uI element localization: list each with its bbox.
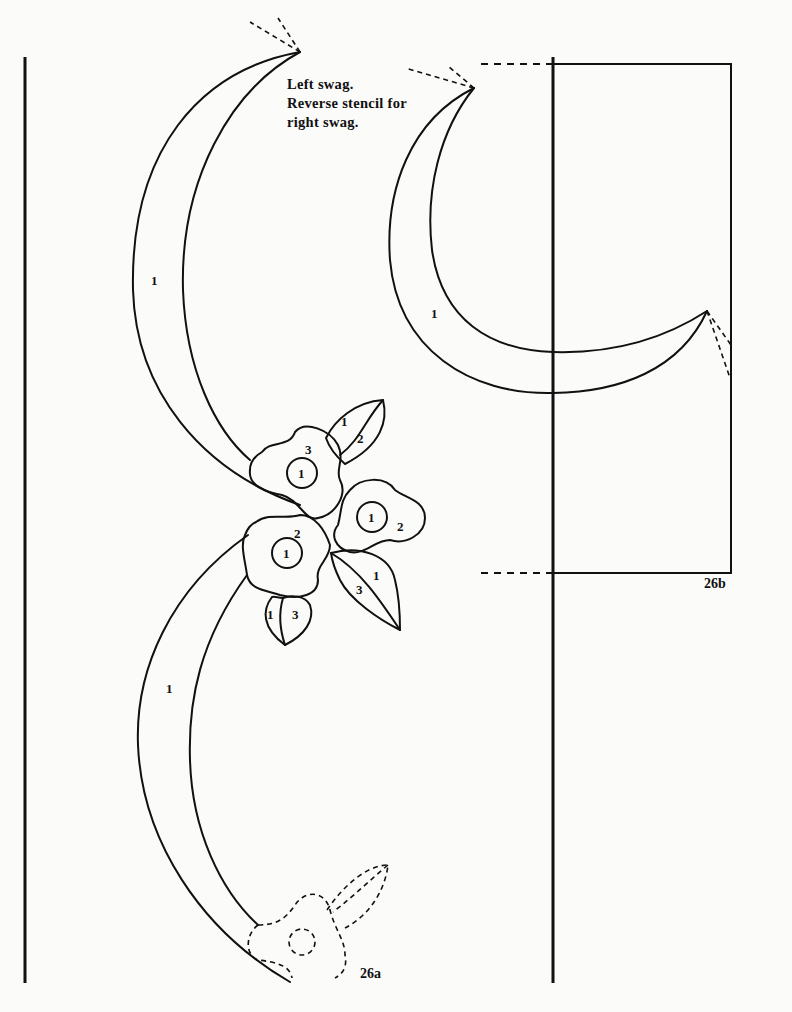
left-swag-lower [138,535,290,982]
figure-label-26b: 26b [704,576,726,592]
num-flower-right-petal: 2 [397,519,404,534]
flower-right [334,480,425,553]
num-flower-right-center: 1 [368,510,375,525]
leaf-right [331,550,400,630]
stencil-instructions: Left swag. Reverse stencil for right swa… [287,75,407,132]
flower-top [250,427,343,519]
right-swag [389,66,731,393]
leaf-top [326,400,385,464]
figure-label-26a: 26a [360,966,381,982]
instruction-line-1: Left swag. [287,75,407,94]
num-leaf-top-b: 2 [357,431,364,446]
num-swag-right: 1 [431,306,438,321]
num-flower-lower-center: 1 [283,546,290,561]
num-leaf-right-a: 1 [373,568,380,583]
num-leaf-right-b: 3 [356,582,363,597]
instruction-line-3: right swag. [287,113,407,132]
num-flower-top-center: 1 [298,466,305,481]
num-flower-top-petal: 3 [305,442,312,457]
num-flower-lower-petal: 2 [294,526,301,541]
num-swag-upper: 1 [151,273,158,288]
left-swag-upper [133,18,300,505]
instruction-line-2: Reverse stencil for [287,94,407,113]
num-leaf-top-a: 1 [341,414,348,429]
stencil-pattern-sheet: 1 1 1 1 3 1 2 1 2 1 2 1 3 1 3 [0,0,792,1012]
dashed-flower-placement [248,865,388,978]
num-swag-lower: 1 [166,681,173,696]
num-bud-a: 1 [267,607,274,622]
num-bud-b: 3 [292,607,299,622]
